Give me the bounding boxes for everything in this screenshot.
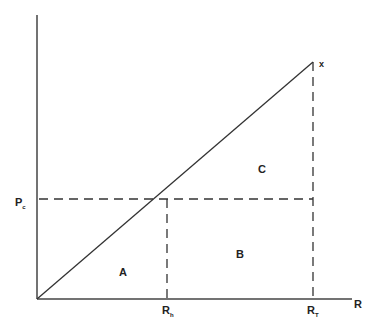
diagram-canvas: Pc Rh RT R x A B C (0, 0, 381, 331)
pc-label: Pc (15, 196, 26, 210)
region-b-label: B (236, 248, 244, 260)
region-c-label: C (258, 163, 266, 175)
region-a-label: A (119, 266, 127, 278)
line-end-label: x (319, 59, 324, 69)
diagonal-line (37, 62, 313, 299)
rt-label: RT (307, 304, 319, 318)
x-axis-label: R (354, 298, 362, 310)
rh-label: Rh (162, 304, 174, 318)
